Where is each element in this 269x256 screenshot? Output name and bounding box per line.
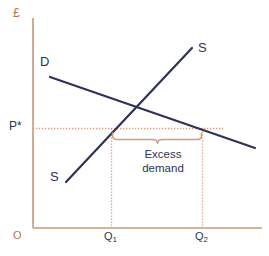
- q1-label-subscript: 1: [113, 235, 117, 244]
- q2-axis-label: Q2: [195, 231, 208, 243]
- q1-axis-label: Q1: [104, 231, 117, 243]
- excess-demand-line-2: demand: [126, 161, 200, 175]
- supply-curve-label-top: S: [198, 41, 207, 55]
- plot-canvas: [0, 0, 269, 256]
- equilibrium-price-label: P*: [9, 120, 22, 133]
- demand-curve-label: D: [40, 55, 49, 69]
- excess-demand-annotation: Excess demand: [126, 147, 200, 175]
- supply-demand-figure: £ O P* D S S Q1 Q2 Excess demand: [0, 0, 269, 256]
- excess-demand-brace: [113, 133, 202, 143]
- q1-label-base: Q: [104, 230, 113, 242]
- q2-label-base: Q: [195, 230, 204, 242]
- y-axis-currency-label: £: [13, 7, 20, 20]
- excess-demand-line-1: Excess: [126, 147, 200, 161]
- origin-label: O: [13, 230, 22, 242]
- supply-curve-label-bottom: S: [50, 170, 59, 184]
- demand-curve: [50, 77, 255, 148]
- q2-label-subscript: 2: [204, 235, 208, 244]
